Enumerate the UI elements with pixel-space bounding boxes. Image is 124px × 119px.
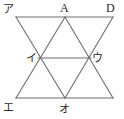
figure-canvas (0, 0, 124, 119)
vertex-label-bottom-center: オ (59, 104, 70, 115)
vertex-label-top-center: A (60, 2, 69, 14)
figure-background (0, 0, 124, 119)
vertex-label-mid-right: ウ (92, 53, 103, 64)
vertex-label-top-right: D (106, 2, 115, 14)
vertex-label-bottom-left: エ (3, 102, 14, 113)
vertex-label-top-left: ア (3, 4, 14, 15)
vertex-label-mid-left: イ (26, 53, 37, 64)
geometry-figure: ア A D イ ウ エ オ (0, 0, 124, 119)
